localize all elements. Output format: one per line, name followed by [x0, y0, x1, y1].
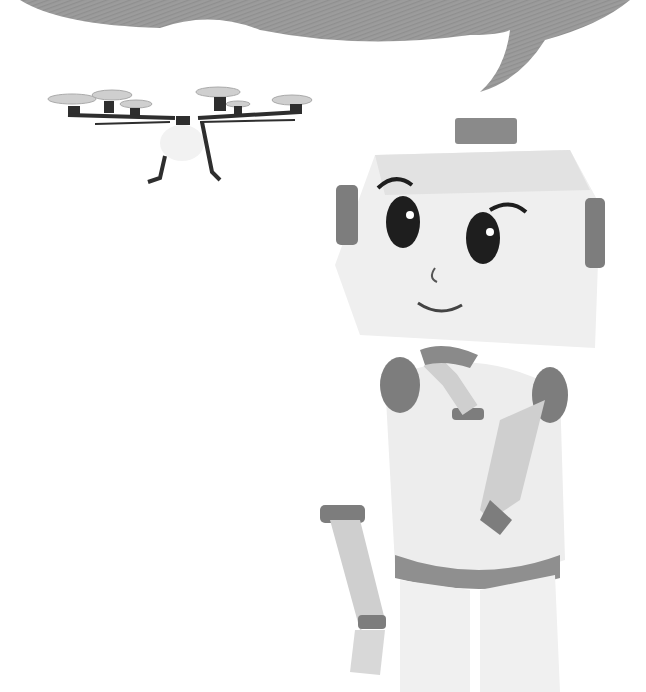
propeller-icon	[48, 94, 96, 104]
eye-right	[466, 212, 500, 264]
eye-left	[386, 196, 420, 248]
robot	[320, 118, 605, 692]
propeller-icon	[120, 100, 152, 108]
robot-antenna	[455, 118, 517, 144]
propeller-icon	[272, 95, 312, 105]
illustration	[0, 0, 646, 692]
drone	[48, 87, 312, 182]
propeller-icon	[196, 87, 240, 97]
propeller-icon	[92, 90, 132, 100]
speech-bubble	[20, 0, 630, 92]
